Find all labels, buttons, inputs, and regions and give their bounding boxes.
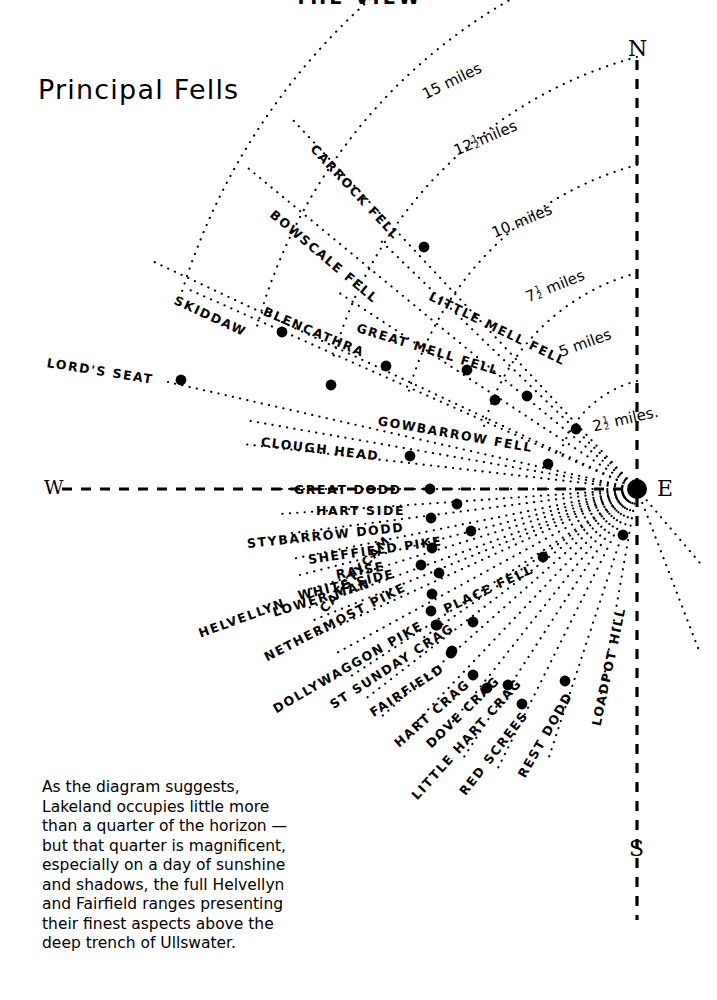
note-line-2: Lakeland occupies little more <box>42 798 402 818</box>
dot-fairfield <box>446 648 457 659</box>
dot-loadpot-hill <box>618 530 629 541</box>
dot-extra-2 <box>571 424 582 435</box>
distance-arc-15 <box>180 0 540 298</box>
note-line-5: especially on a day of sunshine <box>42 856 402 876</box>
dot-little-mell-fell <box>522 391 533 402</box>
dot-place-fell-inner <box>468 617 479 628</box>
dot-rest-dodd <box>560 676 571 687</box>
distance-arc-group <box>180 0 637 454</box>
compass-south-label: S <box>629 836 644 861</box>
note-line-7: and Fairfield ranges presenting <box>42 895 402 915</box>
ray-lords-seat <box>168 382 637 489</box>
note-line-1: As the diagram suggests, <box>42 778 402 798</box>
note-line-8: their finest aspects above the <box>42 915 402 935</box>
dot-extra-1 <box>490 395 501 406</box>
explanatory-note: As the diagram suggests, Lakeland occupi… <box>42 778 402 954</box>
compass-west-label: W <box>44 476 64 498</box>
ray-skiddaw <box>150 260 637 489</box>
ray-loadpot-outer-2 <box>637 489 700 653</box>
dot-clough-head <box>405 451 416 462</box>
dot-white-side <box>416 560 427 571</box>
note-line-9: deep trench of Ullswater. <box>42 934 402 954</box>
dot-carrock-fell <box>419 242 430 253</box>
viewpoint-hub <box>627 479 647 499</box>
ray-little-mell-fell <box>378 238 637 489</box>
compass-north-label: N <box>628 36 647 61</box>
dot-skiddaw <box>176 375 187 386</box>
fell-label-great-dodd: GREAT DODD <box>294 482 402 497</box>
fell-label-hart-side: HART SIDE <box>316 503 405 518</box>
dot-helvellyn <box>426 606 437 617</box>
dot-great-dodd <box>425 484 436 495</box>
compass-east-label: E <box>657 476 673 501</box>
note-line-3: than a quarter of the horizon — <box>42 817 402 837</box>
dot-place-fell <box>538 552 549 563</box>
dot-lower-man <box>434 568 445 579</box>
panorama-diagram-page: THE VIEW Principal Fells .dotline{stroke… <box>0 0 717 1000</box>
note-line-6: and shadows, the full Helvellyn <box>42 876 402 896</box>
dot-stybarrow-dodd <box>426 513 437 524</box>
dot-gowbarrow-fell <box>543 459 554 470</box>
dot-hart-side <box>452 499 463 510</box>
dot-bowscale-fell <box>381 361 392 372</box>
dot-hart-crag <box>468 670 479 681</box>
dot-sheffield-pike <box>466 526 477 537</box>
dot-catstycam <box>427 589 438 600</box>
dot-lords-seat <box>326 380 337 391</box>
note-line-4: but that quarter is magnificent, <box>42 837 402 857</box>
